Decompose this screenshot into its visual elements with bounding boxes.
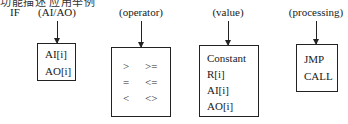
arrow-down-icon [141, 21, 142, 47]
if-keyword: IF [10, 6, 20, 18]
operator-item: > [123, 60, 129, 72]
ai-ao-item: AO[i] [45, 65, 71, 77]
operator-item: <> [145, 92, 157, 104]
value-item: AI[i] [207, 84, 229, 96]
value-item: AO[i] [207, 100, 233, 112]
ai-ao-box: AI[i] AO[i] [37, 43, 76, 81]
operator-item: = [123, 76, 129, 88]
operator-box: > >= = <= < <> [111, 47, 171, 117]
arrow-down-icon [316, 21, 317, 44]
value-item: Constant [207, 52, 246, 64]
operator-item: >= [145, 60, 157, 72]
ai-ao-item: AI[i] [45, 48, 67, 60]
value-box: Constant R[i] AI[i] AO[i] [199, 45, 259, 117]
arrow-down-icon [57, 21, 58, 43]
arrow-down-icon [228, 21, 229, 45]
value-item: R[i] [207, 68, 225, 80]
processing-box: JMP CALL [296, 44, 338, 92]
operator-item: < [123, 92, 129, 104]
processing-item: CALL [304, 70, 333, 82]
processing-label: (processing) [289, 6, 343, 18]
ai-ao-label: (AI/AO) [38, 6, 76, 18]
operator-item: <= [145, 76, 157, 88]
processing-item: JMP [304, 53, 324, 65]
operator-label: (operator) [119, 6, 163, 18]
value-label: (value) [212, 6, 243, 18]
